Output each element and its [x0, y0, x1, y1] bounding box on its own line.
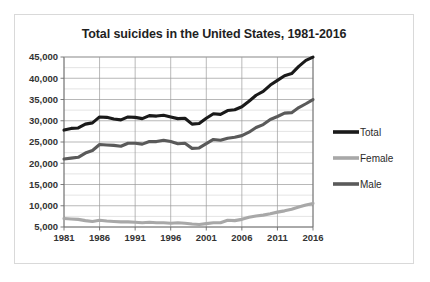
y-axis-tick-label: 20,000: [29, 158, 58, 169]
x-axis-tick-label: 1991: [125, 232, 147, 243]
x-axis-tick-label: 1986: [89, 232, 110, 243]
x-axis-tick-labels: 19811986199119962001200620112016: [53, 232, 323, 243]
legend-label-male: Male: [360, 179, 382, 190]
chart-legend: TotalFemaleMale: [333, 127, 394, 190]
series-line-total: [64, 57, 313, 130]
data-series: [64, 57, 313, 224]
y-axis-tick-label: 5,000: [34, 221, 58, 232]
series-line-female: [64, 203, 313, 224]
y-axis-tick-label: 10,000: [29, 200, 58, 211]
x-axis-tick-label: 2006: [231, 232, 252, 243]
y-axis-tick-label: 45,000: [29, 51, 58, 62]
x-axis-tick-label: 2001: [196, 232, 218, 243]
y-axis-tick-label: 30,000: [29, 115, 58, 126]
x-axis-tick-label: 2016: [302, 232, 323, 243]
y-axis-tick-label: 15,000: [29, 179, 58, 190]
chart-card: Total suicides in the United States, 198…: [14, 14, 414, 264]
line-chart-plot: 5,00010,00015,00020,00025,00030,00035,00…: [15, 15, 415, 265]
x-axis-tick-label: 1981: [53, 232, 75, 243]
x-axis-tick-label: 2011: [267, 232, 288, 243]
y-axis-tick-labels: 5,00010,00015,00020,00025,00030,00035,00…: [29, 51, 58, 232]
x-axis-tick-label: 1996: [160, 232, 181, 243]
y-axis-tick-label: 35,000: [29, 94, 58, 105]
legend-label-female: Female: [360, 153, 394, 164]
y-axis-tick-label: 25,000: [29, 136, 58, 147]
y-axis-tick-label: 40,000: [29, 73, 58, 84]
legend-label-total: Total: [360, 127, 381, 138]
series-line-male: [64, 100, 313, 159]
